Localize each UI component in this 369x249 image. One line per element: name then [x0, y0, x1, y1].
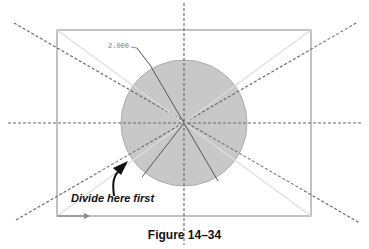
drawing-canvas	[0, 0, 369, 249]
dimension-label: 2.000	[108, 42, 129, 50]
axis-indicator	[57, 213, 90, 219]
leader-line	[131, 47, 137, 48]
figure-caption: Figure 14–34	[0, 228, 369, 242]
callout-text: Divide here first	[71, 192, 154, 204]
